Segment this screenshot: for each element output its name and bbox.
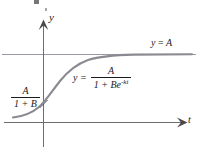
top-edge-artifact-dot [45,8,47,11]
y-axis-label: y [49,12,54,23]
t-axis-label: t [188,115,191,125]
top-edge-artifact [34,0,39,4]
equation-denominator: 1 + Be-kt [91,79,132,90]
y-intercept-numerator: A [11,86,40,96]
asymptote-label-rhs: A [166,37,172,48]
y-intercept-label: A 1 + B [11,86,40,109]
equation-lhs: y = [73,73,87,83]
equation-fraction: A 1 + Be-kt [91,66,132,90]
logistic-curve-figure: y t y = A A 1 + B y = A 1 + Be-kt [0,0,198,155]
equation-denominator-prefix: 1 + B [94,79,117,90]
equation-numerator: A [91,66,132,76]
asymptote-label: y = A [151,38,172,48]
y-intercept-denominator: 1 + B [11,99,40,109]
asymptote-label-equals: = [155,37,166,48]
y-intercept-fraction: A 1 + B [11,86,40,109]
equation-denominator-exponent: -kt [121,78,128,86]
equation-label: y = A 1 + Be-kt [73,66,131,90]
